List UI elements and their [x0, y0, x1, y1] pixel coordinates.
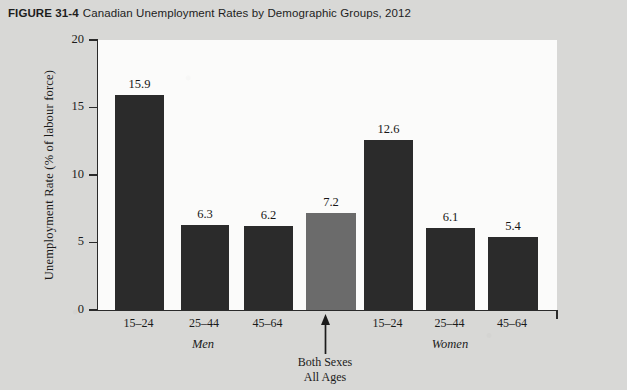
x-axis-category-label: 45–64: [487, 316, 537, 331]
y-axis-tick-label: 15: [44, 98, 84, 114]
y-axis-tick-label: 10: [44, 166, 84, 182]
y-axis-tick: 10: [89, 174, 98, 176]
bar-value-label: 5.4: [505, 219, 521, 234]
up-arrow-icon: [320, 314, 331, 354]
x-axis-category-label: 45–64: [243, 316, 292, 331]
x-axis-category-label: 25–44: [180, 316, 228, 331]
bar: 7.2: [306, 213, 356, 310]
bar-value-label: 6.3: [197, 207, 213, 222]
bar: 6.2: [244, 226, 293, 310]
y-axis-tick: 0: [89, 309, 98, 311]
y-axis-tick: 20: [89, 39, 98, 41]
figure-container: FIGURE 31-4Canadian Unemployment Rates b…: [0, 0, 627, 390]
both-sexes-line1: Both Sexes: [272, 355, 378, 370]
both-sexes-annotation: Both Sexes All Ages: [272, 355, 378, 385]
bar-value-label: 6.1: [443, 210, 459, 225]
y-axis-tick-label: 0: [44, 301, 84, 317]
x-axis-group-label-men: Men: [114, 337, 292, 352]
x-axis-category-label: 15–24: [114, 316, 163, 331]
bar-value-label: 12.6: [378, 122, 400, 137]
bar-value-label: 6.2: [261, 208, 277, 223]
x-axis-group-label-women: Women: [363, 337, 537, 352]
bar: 5.4: [488, 237, 538, 310]
bar: 12.6: [364, 140, 413, 310]
x-axis-right-cap: [556, 310, 558, 319]
y-axis-tick-label: 5: [44, 233, 84, 249]
figure-title: Canadian Unemployment Rates by Demograph…: [83, 7, 411, 19]
figure-caption: FIGURE 31-4Canadian Unemployment Rates b…: [8, 7, 411, 19]
y-axis-tick: 15: [89, 107, 98, 109]
bar-value-label: 7.2: [323, 195, 339, 210]
bar: 6.3: [181, 225, 229, 310]
y-axis-tick-label: 20: [44, 31, 84, 47]
both-sexes-line2: All Ages: [272, 370, 378, 385]
plot-area: 05101520 15.96.36.27.212.66.15.4: [97, 40, 557, 311]
bar-value-label: 15.9: [129, 77, 151, 92]
figure-number: FIGURE 31-4: [8, 7, 79, 19]
y-axis-tick: 5: [89, 242, 98, 244]
bar: 15.9: [115, 95, 164, 310]
bar: 6.1: [426, 228, 475, 310]
x-axis-category-label: 25–44: [425, 316, 474, 331]
x-axis-category-label: 15–24: [363, 316, 412, 331]
